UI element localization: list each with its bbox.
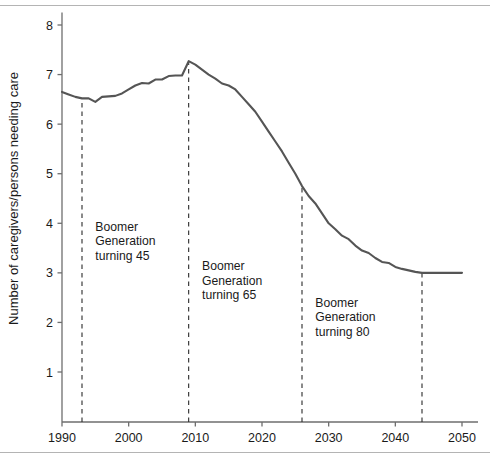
x-tick-label: 1990 — [48, 431, 76, 445]
x-tick-label: 2010 — [181, 431, 209, 445]
x-axis: 1990200020102020203020402050 — [48, 422, 478, 445]
y-tick-label: 5 — [46, 167, 53, 181]
chart-figure: 12345678 1990200020102020203020402050 Bo… — [0, 0, 490, 463]
annotation-boomer-45: BoomerGenerationturning 45 — [95, 220, 155, 263]
x-tick-label: 2020 — [248, 431, 276, 445]
y-axis-title-text: Number of caregivers/persons needing car… — [6, 72, 21, 325]
y-axis: 12345678 — [46, 13, 62, 422]
y-tick-label: 1 — [46, 366, 53, 380]
line-chart-plot: 12345678 1990200020102020203020402050 Bo… — [0, 0, 490, 463]
y-tick-label: 4 — [46, 217, 53, 231]
x-tick-label: 2000 — [115, 431, 143, 445]
y-tick-label: 7 — [46, 68, 53, 82]
y-tick-label: 3 — [46, 266, 53, 280]
x-tick-label: 2030 — [315, 431, 343, 445]
y-tick-label: 6 — [46, 118, 53, 132]
y-axis-title: Number of caregivers/persons needing car… — [6, 72, 21, 325]
x-tick-label: 2040 — [381, 431, 409, 445]
annotation-boomer-80: BoomerGenerationturning 80 — [315, 296, 375, 339]
annotations: BoomerGenerationturning 45BoomerGenerati… — [95, 220, 375, 339]
y-tick-label: 8 — [46, 19, 53, 33]
annotation-boomer-65: BoomerGenerationturning 65 — [202, 259, 262, 302]
x-tick-label: 2050 — [448, 431, 476, 445]
y-tick-label: 2 — [46, 316, 53, 330]
